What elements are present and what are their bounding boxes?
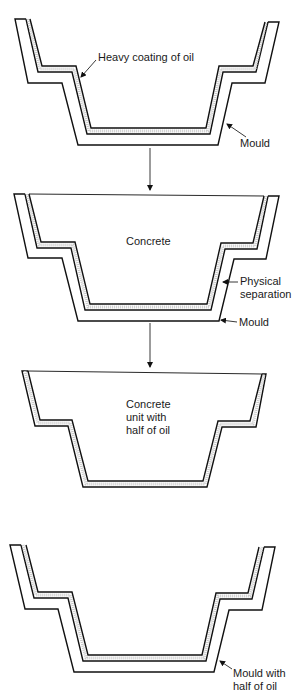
label-unit-2: unit with [126,411,166,423]
oil-surface [26,545,259,655]
label-heavy-coating-oil: Heavy coating of oil [98,51,194,63]
label-mould: Mould [240,137,270,149]
label-concrete: Concrete [126,235,171,247]
label-mould-with: Mould with [233,667,286,679]
stage-1-mould-with-oil: Heavy coating of oil Mould [15,19,279,149]
diagram-canvas: Heavy coating of oil Mould Concrete Phys… [0,0,300,695]
label-mould: Mould [239,316,269,328]
mould-inner-surface [21,545,264,661]
mould-leader-arrow [221,320,237,322]
mould-half-oil-leader-arrow [220,661,232,669]
stage-3-concrete-unit: Concrete unit with half of oil [22,371,266,487]
label-physical: Physical [240,275,281,287]
oil-half-coating [23,545,262,658]
label-unit-3: half of oil [126,424,170,436]
label-half-of-oil: half of oil [233,680,277,692]
oil-coating [28,19,266,131]
label-separation: separation [240,288,291,300]
mould-inner-surface [26,19,268,134]
label-unit-1: Concrete [126,398,171,410]
concrete-top-line [29,194,264,196]
stage-2-concrete-in-mould: Concrete Physical separation Mould [14,194,291,328]
mould-inner-surface [25,194,268,310]
mould-leader-arrow [227,124,246,137]
oil-coating [27,194,266,307]
unit-top-line [28,371,262,374]
mould-outer-outline [10,545,275,672]
mould-outer-outline [15,19,279,145]
stage-4-mould-half-oil: Mould with half of oil [10,545,286,692]
mould-outer-outline [14,194,279,321]
oil-surface [30,19,265,128]
oil-leader-arrow [81,60,96,77]
